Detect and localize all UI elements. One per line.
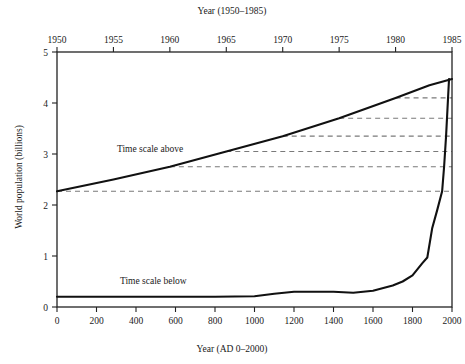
- bottom-tick-label: 400: [129, 316, 144, 326]
- y-tick-label: 3: [43, 150, 48, 160]
- population-line-chart: Year (1950–1985) 19501955196019651970197…: [0, 0, 465, 364]
- top-tick-label: 1960: [160, 35, 179, 45]
- bottom-tick-label: 2000: [443, 316, 462, 326]
- y-tick-label: 2: [43, 201, 48, 211]
- bottom-tick-label: 1600: [364, 316, 383, 326]
- y-tick-label: 4: [43, 99, 48, 109]
- bottom-tick-label: 1200: [285, 316, 304, 326]
- top-tick-label: 1955: [104, 35, 123, 45]
- bottom-axis-title: Year (AD 0–2000): [197, 344, 268, 355]
- bottom-tick-label: 800: [208, 316, 223, 326]
- top-tick-label: 1975: [330, 35, 349, 45]
- bottom-tick-label: 1400: [324, 316, 343, 326]
- top-tick-label: 1970: [273, 35, 292, 45]
- chart-figure: Year (1950–1985) 19501955196019651970197…: [0, 0, 465, 364]
- y-tick-label: 5: [43, 48, 48, 58]
- bottom-tick-label: 200: [89, 316, 104, 326]
- bottom-tick-label: 600: [168, 316, 183, 326]
- y-axis-title: World population (billions): [14, 125, 25, 229]
- top-tick-label: 1965: [217, 35, 236, 45]
- top-tick-label: 1980: [386, 35, 405, 45]
- bottom-tick-label: 0: [55, 316, 60, 326]
- top-axis-title: Year (1950–1985): [198, 6, 267, 17]
- annotation-time-scale-below: Time scale below: [120, 276, 187, 286]
- bottom-tick-label: 1000: [245, 316, 264, 326]
- top-tick-label: 1985: [443, 35, 462, 45]
- annotation-time-scale-above: Time scale above: [117, 144, 183, 154]
- y-tick-label: 0: [43, 303, 48, 313]
- top-tick-label: 1950: [48, 35, 67, 45]
- chart-background: [0, 0, 465, 364]
- bottom-tick-label: 1800: [403, 316, 422, 326]
- y-tick-label: 1: [43, 252, 48, 262]
